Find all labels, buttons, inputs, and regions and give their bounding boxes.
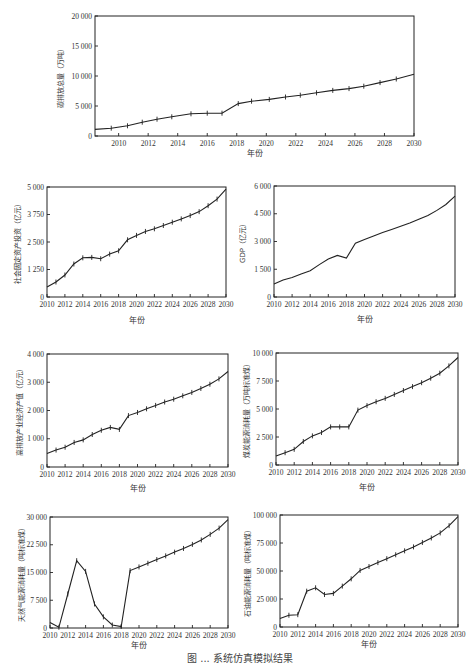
x-tick-label: 2018 [341, 468, 356, 477]
plot-frame [280, 515, 458, 627]
y-tick-label: 30 000 [26, 513, 47, 522]
figure-caption: 图 ... 系统仿真模拟结果 [80, 650, 400, 664]
x-tick-label: 2016 [323, 468, 338, 477]
x-tick-label: 2024 [167, 631, 182, 640]
x-tick-label: 2026 [411, 300, 426, 309]
x-tick-label: 2022 [288, 139, 303, 148]
x-axis-label: 年份 [361, 639, 377, 649]
x-tick-label: 2028 [429, 300, 444, 309]
x-axis-label: 年份 [130, 483, 146, 493]
x-tick-label: 2012 [57, 300, 72, 309]
chart-high_emission_output: 01 0002 0003 0004 0002010201220142016201… [15, 350, 236, 494]
x-axis-label: 年份 [129, 315, 145, 325]
y-axis-label: 碳排放总量（万吨） [56, 45, 65, 108]
x-tick-label: 2018 [339, 300, 354, 309]
y-axis-label: GDP（亿元） [238, 220, 247, 263]
x-axis-label: 年份 [247, 148, 263, 158]
x-axis-label: 年份 [359, 482, 375, 492]
x-tick-label: 2012 [60, 631, 75, 640]
plot-frame [274, 186, 455, 297]
x-tick-label: 2012 [287, 468, 302, 477]
x-tick-label: 2026 [185, 631, 200, 640]
x-tick-label: 2018 [111, 300, 126, 309]
x-tick-label: 2030 [219, 300, 234, 309]
plot-frame [50, 517, 228, 628]
x-tick-label: 2024 [318, 139, 333, 148]
x-tick-label: 2030 [221, 631, 236, 640]
chart-gdp: 01 5003 0004 5006 0002010201220142016201… [238, 182, 463, 325]
plot-frame [276, 353, 458, 465]
x-tick-label: 2010 [269, 468, 284, 477]
y-tick-label: 20 000 [71, 12, 92, 21]
y-tick-label: 75 000 [256, 539, 277, 548]
y-tick-label: 25 000 [256, 595, 277, 604]
plot-frame [95, 16, 414, 136]
y-tick-label: 4 500 [254, 209, 271, 218]
y-axis-label: 高排放产业经济产值（亿元） [15, 365, 24, 456]
chart-natural_gas_consumption: 07 50015 00022 50030 0002010201220142016… [17, 513, 236, 651]
y-tick-label: 15 000 [71, 42, 92, 51]
x-tick-label: 2018 [229, 139, 244, 148]
x-tick-label: 2014 [170, 139, 185, 148]
y-axis-label: 石油能源消耗量（吨标准煤） [243, 526, 252, 617]
x-tick-label: 2026 [183, 300, 198, 309]
x-tick-label: 2022 [148, 470, 163, 479]
y-tick-label: 7 500 [30, 596, 47, 605]
y-tick-label: 1 250 [27, 265, 44, 274]
x-tick-label: 2016 [326, 630, 341, 639]
x-tick-label: 2022 [379, 630, 394, 639]
x-tick-label: 2020 [259, 139, 274, 148]
y-tick-label: 3 000 [27, 378, 44, 387]
x-tick-label: 2028 [202, 470, 217, 479]
x-tick-label: 2016 [93, 300, 108, 309]
x-tick-label: 2028 [433, 630, 448, 639]
y-tick-label: 3 000 [254, 237, 271, 246]
y-tick-label: 1 000 [27, 434, 44, 443]
y-tick-label: 6 000 [254, 182, 271, 191]
x-tick-label: 2030 [451, 630, 466, 639]
x-tick-label: 2026 [415, 630, 430, 639]
y-tick-label: 5 000 [75, 102, 92, 111]
x-tick-label: 2014 [78, 631, 93, 640]
y-axis-label: 天然气能源消耗量（吨标准煤） [17, 524, 26, 622]
y-tick-label: 7 500 [256, 377, 273, 386]
data-series-line [47, 189, 226, 287]
x-tick-label: 2022 [149, 631, 164, 640]
x-tick-label: 2014 [305, 468, 320, 477]
x-tick-label: 2024 [393, 300, 408, 309]
y-tick-label: 50 000 [256, 567, 277, 576]
x-tick-label: 2026 [347, 139, 362, 148]
x-tick-label: 2030 [221, 470, 236, 479]
x-tick-label: 2012 [58, 470, 73, 479]
x-tick-label: 2016 [94, 470, 109, 479]
x-tick-label: 2024 [397, 630, 412, 639]
y-axis-label: 煤炭能源消耗量（万吨标准煤） [242, 360, 251, 458]
x-tick-label: 2010 [40, 300, 55, 309]
x-tick-label: 2030 [451, 468, 466, 477]
x-tick-label: 2026 [184, 470, 199, 479]
x-tick-label: 2028 [432, 468, 447, 477]
data-series-line [274, 196, 455, 284]
plot-frame [47, 187, 226, 297]
chart-fixed_investment: 01 2502 5003 7505 0002010201220142016201… [13, 183, 234, 326]
y-tick-label: 4 000 [27, 350, 44, 359]
x-tick-label: 2022 [147, 300, 162, 309]
x-tick-label: 2014 [308, 630, 323, 639]
x-tick-label: 2030 [407, 139, 422, 148]
x-tick-label: 2010 [267, 300, 282, 309]
x-tick-label: 2020 [132, 631, 147, 640]
y-tick-label: 100 000 [253, 511, 278, 520]
chart-oil_consumption: 025 00050 00075 000100 00020102012201420… [243, 511, 466, 650]
x-tick-label: 2010 [43, 631, 58, 640]
x-tick-label: 2010 [273, 630, 288, 639]
x-tick-label: 2016 [96, 631, 111, 640]
x-tick-label: 2028 [377, 139, 392, 148]
y-tick-label: 15 000 [26, 568, 47, 577]
data-series-line [50, 520, 228, 628]
x-tick-label: 2026 [414, 468, 429, 477]
x-tick-label: 2020 [360, 468, 375, 477]
x-tick-label: 2020 [362, 630, 377, 639]
x-tick-label: 2010 [111, 139, 126, 148]
x-tick-label: 2022 [375, 300, 390, 309]
